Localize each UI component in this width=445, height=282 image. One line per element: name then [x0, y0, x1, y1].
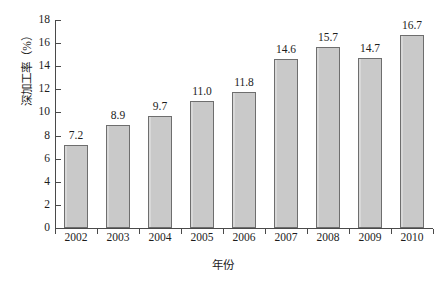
bar-highlight	[359, 59, 361, 227]
bar-highlight	[65, 146, 67, 227]
bar	[316, 47, 340, 228]
bar-value-label: 16.7	[402, 20, 422, 32]
y-tick-label: 18	[39, 14, 51, 26]
y-axis-line	[55, 20, 56, 228]
x-tick-mark	[391, 229, 392, 234]
x-axis-title: 年份	[0, 256, 445, 272]
bar	[106, 125, 130, 228]
bar-highlight	[233, 93, 235, 227]
x-tick-mark	[265, 229, 266, 234]
bar	[148, 116, 172, 228]
bar-value-label: 7.2	[69, 130, 83, 142]
x-tick-mark	[181, 229, 182, 234]
bar-value-label: 15.7	[318, 32, 338, 44]
x-tick-mark	[139, 229, 140, 234]
bar-value-label: 8.9	[111, 110, 125, 122]
bar-value-label: 14.7	[360, 43, 380, 55]
bar-highlight	[191, 102, 193, 227]
x-tick-mark	[223, 229, 224, 234]
y-tick-label: 10	[39, 107, 51, 119]
bar-highlight	[107, 126, 109, 227]
bar	[400, 35, 424, 228]
x-category-label: 2007	[275, 232, 298, 244]
x-tick-mark	[55, 229, 56, 234]
bar-chart: 深加工率（%） 181614121086420 7.28.99.711.011.…	[0, 0, 445, 282]
bar-highlight	[317, 48, 319, 227]
y-tick-label: 0	[44, 222, 50, 234]
y-tick-label: 2	[44, 199, 50, 211]
x-tick-mark	[97, 229, 98, 234]
x-axis-line	[55, 228, 433, 229]
bar-value-label: 9.7	[153, 101, 167, 113]
x-tick-mark	[349, 229, 350, 234]
x-category-label: 2009	[359, 232, 382, 244]
y-tick-label: 8	[44, 130, 50, 142]
bar-value-label: 11.8	[234, 77, 254, 89]
x-category-label: 2005	[191, 232, 214, 244]
bar	[274, 59, 298, 228]
x-tick-mark	[307, 229, 308, 234]
bar-value-label: 11.0	[192, 86, 212, 98]
x-category-label: 2006	[233, 232, 256, 244]
bar-highlight	[275, 60, 277, 227]
x-category-label: 2004	[149, 232, 172, 244]
y-tick-label: 16	[39, 37, 51, 49]
bar	[190, 101, 214, 228]
bar	[64, 145, 88, 228]
bar-highlight	[401, 36, 403, 227]
bar	[232, 92, 256, 228]
x-category-label: 2010	[401, 232, 424, 244]
plot-area: 181614121086420 7.28.99.711.011.814.615.…	[55, 20, 433, 228]
bar-highlight	[149, 117, 151, 227]
y-tick-label: 4	[44, 176, 50, 188]
bar	[358, 58, 382, 228]
y-tick-label: 14	[39, 60, 51, 72]
y-tick-label: 12	[39, 84, 51, 96]
y-tick-label: 6	[44, 153, 50, 165]
x-category-label: 2002	[65, 232, 88, 244]
y-axis-title: 深加工率（%）	[18, 8, 34, 128]
x-tick-mark	[433, 229, 434, 234]
x-category-label: 2003	[107, 232, 130, 244]
bar-value-label: 14.6	[276, 44, 296, 56]
x-category-label: 2008	[317, 232, 340, 244]
